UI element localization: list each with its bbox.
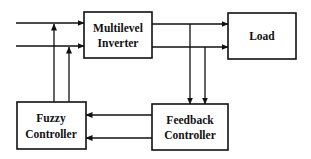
inverter-label-line-1: Multilevel	[93, 22, 143, 34]
block-diagram: Multilevel Inverter Load Fuzzy Controlle…	[0, 0, 311, 159]
feedback-label-line-1: Feedback	[166, 114, 214, 126]
fuzzy-controller-block: Fuzzy Controller	[17, 102, 86, 149]
fuzzy-label-line-1: Fuzzy	[36, 112, 66, 125]
feedback-controller-block: Feedback Controller	[152, 104, 228, 150]
load-block: Load	[228, 13, 296, 59]
feedback-label-line-2: Controller	[164, 129, 216, 141]
multilevel-inverter-block: Multilevel Inverter	[84, 12, 152, 58]
inverter-label-line-2: Inverter	[98, 37, 139, 49]
fuzzy-label-line-2: Controller	[25, 128, 77, 140]
load-label: Load	[249, 30, 275, 42]
